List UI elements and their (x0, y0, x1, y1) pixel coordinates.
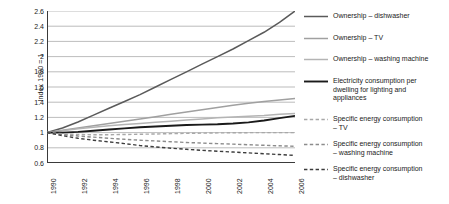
legend-label: Electricity consumption per dwelling for… (333, 77, 417, 103)
legend-swatch-line-icon (304, 12, 328, 21)
x-axis-tick-label: 1992 (81, 178, 88, 194)
series-line-2 (47, 114, 295, 133)
legend-item[interactable]: Specific energy consumption – dishwasher (304, 165, 423, 182)
plot-area (47, 11, 295, 163)
legend-swatch-line-icon (304, 34, 328, 43)
x-axis-tick-labels: 199019921994199619982000200220042006 (47, 166, 295, 204)
y-axis-tick-label: 0.6 (1, 160, 47, 167)
y-axis-tick-label: 1.8 (1, 68, 47, 75)
x-axis-tick-label: 2004 (267, 178, 274, 194)
x-axis-tick-label: 2002 (236, 178, 243, 194)
legend-swatch-line-icon (304, 115, 328, 124)
legend-item[interactable]: Electricity consumption per dwelling for… (304, 77, 417, 103)
y-axis-tick-label: 1.2 (1, 114, 47, 121)
legend-item[interactable]: Ownership – washing machine (304, 55, 428, 64)
legend-label: Ownership – dishwasher (333, 12, 410, 21)
y-axis-tick-label: 2 (1, 53, 47, 60)
y-axis-tick-label: 0.8 (1, 144, 47, 151)
legend-item[interactable]: Specific energy consumption – washing ma… (304, 140, 423, 157)
x-axis-tick-label: 1990 (50, 178, 57, 194)
legend-label: Ownership – TV (333, 34, 383, 43)
legend-label: Ownership – washing machine (333, 55, 428, 64)
legend-label: Specific energy consumption – washing ma… (333, 140, 423, 157)
x-axis-tick-label: 1998 (174, 178, 181, 194)
chart-figure: Index 1990 = 1 2.62.42.221.81.61.41.210.… (0, 0, 449, 204)
x-axis-tick-label: 2000 (205, 178, 212, 194)
legend-label: Specific energy consumption – TV (333, 115, 423, 132)
y-axis-tick-label: 2.4 (1, 23, 47, 30)
y-axis-tick-label: 1.6 (1, 84, 47, 91)
series-line-4 (47, 133, 295, 135)
legend-swatch-line-icon (304, 140, 328, 149)
legend-swatch-line-icon (304, 165, 328, 174)
x-axis-tick-label: 1994 (112, 178, 119, 194)
legend-swatch-line-icon (304, 55, 328, 64)
plot-canvas (47, 11, 295, 163)
y-axis-tick-label: 1 (1, 129, 47, 136)
legend-item[interactable]: Ownership – dishwasher (304, 12, 410, 21)
legend-item[interactable]: Ownership – TV (304, 34, 383, 43)
y-axis-tick-label: 1.4 (1, 99, 47, 106)
x-axis-tick-label: 1996 (143, 178, 150, 194)
legend-item[interactable]: Specific energy consumption – TV (304, 115, 423, 132)
series-line-3 (47, 116, 295, 133)
y-axis-tick-label: 2.6 (1, 8, 47, 15)
legend-label: Specific energy consumption – dishwasher (333, 165, 423, 182)
y-axis-tick-label: 2.2 (1, 38, 47, 45)
legend-swatch-line-icon (304, 77, 328, 86)
y-axis-tick-labels: 2.62.42.221.81.61.41.210.80.6 (0, 11, 47, 163)
